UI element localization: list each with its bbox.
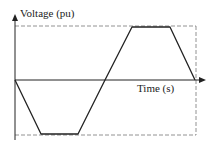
x-axis-label: Time (s) — [137, 82, 175, 95]
x-axis-arrow-icon — [199, 77, 206, 83]
y-axis — [12, 14, 18, 140]
x-axis — [15, 77, 206, 83]
y-axis-label: Voltage (pu) — [20, 7, 75, 20]
waveform-diagram: Voltage (pu) Time (s) — [0, 0, 213, 143]
y-axis-arrow-icon — [12, 14, 18, 21]
